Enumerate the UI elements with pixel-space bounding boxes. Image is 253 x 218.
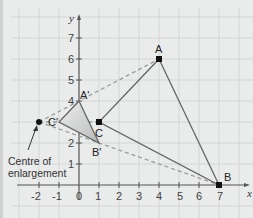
y-tick-label: 2 (68, 137, 74, 149)
enlargement-diagram: -2 -1 0 1 2 3 4 5 6 7 1 2 3 4 5 6 7 y x (0, 0, 253, 218)
centre-of-enlargement-label: Centre of enlargement (8, 155, 66, 179)
x-tick-label: -1 (52, 190, 62, 202)
point-b-prime-label: B' (92, 146, 101, 158)
point-c-prime-label: C' (48, 116, 58, 128)
x-tick-label: 4 (156, 190, 162, 202)
x-tick-label: 1 (95, 190, 101, 202)
point-b-label: B (224, 171, 231, 183)
centre-label-line1: Centre of (8, 155, 66, 167)
y-tick-label: 7 (68, 32, 74, 44)
x-tick-label: 2 (116, 190, 122, 202)
x-tick-label: 6 (196, 190, 202, 202)
y-tick-label: 6 (68, 53, 74, 65)
x-tick-label: 7 (217, 190, 223, 202)
x-tick-label: 3 (136, 190, 142, 202)
x-tick-label: -2 (31, 190, 41, 202)
x-tick-label: 5 (177, 190, 183, 202)
centre-label-line2: enlargement (8, 167, 66, 179)
y-tick-label: 1 (68, 158, 74, 170)
pointer-arrow-icon (33, 125, 38, 131)
point-a-marker (156, 56, 162, 62)
point-a-label: A (155, 43, 163, 55)
coordinate-grid: -2 -1 0 1 2 3 4 5 6 7 1 2 3 4 5 6 7 y x (3, 0, 253, 218)
y-axis-label: y (68, 12, 74, 24)
y-tick-label: 5 (68, 74, 74, 86)
x-axis-label: x (246, 187, 252, 199)
point-a-prime-label: A' (80, 89, 89, 101)
centre-of-enlargement-marker (36, 119, 42, 125)
centre-pointer-line (28, 128, 36, 150)
point-c-marker (96, 119, 102, 125)
x-tick-label: 0 (76, 190, 82, 202)
point-b-marker (216, 182, 222, 188)
point-c-label: C (95, 127, 103, 139)
